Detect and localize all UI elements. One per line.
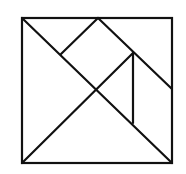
- top-mid-to-right-mid-line: [98, 18, 172, 89]
- tangram-diagram: [0, 0, 186, 174]
- top-mid-to-diagonal-line: [61, 18, 98, 54]
